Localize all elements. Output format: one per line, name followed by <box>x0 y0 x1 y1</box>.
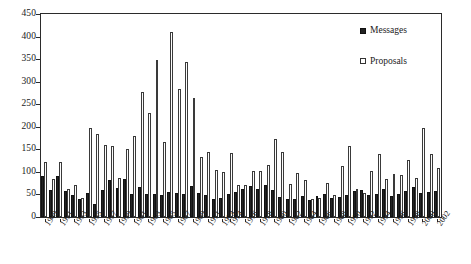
bar-proposals <box>393 174 396 217</box>
bar-proposals <box>207 152 210 217</box>
bar-group <box>167 32 174 217</box>
bar-group <box>116 178 123 217</box>
bar-proposals <box>126 149 129 217</box>
y-axis-tick-label: 200 <box>21 122 36 132</box>
bar-proposals <box>59 162 62 217</box>
bar-group <box>108 146 115 217</box>
bar-proposals <box>274 139 277 217</box>
bar-group <box>419 128 426 217</box>
y-axis: 050100150200250300350400450 <box>0 0 40 218</box>
bar-group <box>278 152 285 217</box>
bar-proposals <box>148 113 151 217</box>
legend-label-messages: Messages <box>370 26 407 36</box>
legend-label-proposals: Proposals <box>370 57 407 67</box>
bar-proposals <box>222 172 225 217</box>
bar-group <box>256 171 263 217</box>
bar-group <box>345 146 352 217</box>
bar-group <box>227 153 234 217</box>
bar-proposals <box>156 60 159 217</box>
bar-proposals <box>163 142 166 217</box>
bar-proposals <box>111 146 114 217</box>
legend-item-proposals: Proposals <box>360 57 428 67</box>
bar-group <box>101 145 108 217</box>
bar-group <box>204 152 211 217</box>
bar-group <box>301 180 308 217</box>
bar-proposals <box>178 89 181 217</box>
bar-group <box>375 154 382 217</box>
bar-group <box>93 134 100 217</box>
bar-group <box>145 113 152 217</box>
bar-group <box>175 89 182 217</box>
bar-proposals <box>259 171 262 217</box>
y-axis-tick-label: 400 <box>21 32 36 42</box>
bar-proposals <box>193 98 196 217</box>
bar-proposals <box>348 146 351 217</box>
bar-proposals <box>200 157 203 217</box>
bar-group <box>197 157 204 217</box>
bar-proposals <box>289 184 292 217</box>
bar-group <box>160 142 167 217</box>
bar-proposals <box>281 152 284 217</box>
x-axis: 1949195119531955195719591961196319651967… <box>41 219 441 264</box>
bar-proposals <box>304 180 307 217</box>
bar-group <box>182 62 189 217</box>
bar-group <box>219 172 226 217</box>
bar-proposals <box>437 168 440 217</box>
y-axis-tick-label: 250 <box>21 99 36 109</box>
bar-group <box>427 154 434 217</box>
y-axis-tick-label: 150 <box>21 145 36 155</box>
bar-proposals <box>74 185 77 217</box>
bar-group <box>41 162 48 217</box>
bar-group <box>271 139 278 217</box>
bar-group <box>390 174 397 217</box>
bar-proposals <box>133 136 136 217</box>
bar-proposals <box>363 193 366 217</box>
bar-proposals <box>244 185 247 217</box>
legend-item-messages: Messages <box>360 26 428 36</box>
bar-proposals <box>96 134 99 217</box>
bar-proposals <box>230 153 233 217</box>
bar-group <box>434 168 441 217</box>
bar-proposals <box>407 160 410 217</box>
y-axis-tick-label: 300 <box>21 77 36 87</box>
bar-proposals <box>141 92 144 217</box>
legend-swatch-messages-icon <box>360 28 366 34</box>
bar-proposals <box>422 128 425 217</box>
bar-proposals <box>378 154 381 217</box>
bar-group <box>138 92 145 217</box>
bar-group <box>404 160 411 217</box>
bar-proposals <box>104 145 107 217</box>
bar-proposals <box>185 62 188 217</box>
bar-group <box>56 162 63 217</box>
bar-group <box>123 149 130 217</box>
bar-proposals <box>170 32 173 217</box>
legend-swatch-proposals-icon <box>360 58 366 64</box>
bar-group <box>86 128 93 217</box>
y-axis-tick-label: 50 <box>26 190 36 200</box>
bar-proposals <box>89 128 92 217</box>
y-axis-tick-label: 450 <box>21 9 36 19</box>
legend: Messages Proposals <box>358 22 430 70</box>
y-axis-tick-label: 350 <box>21 54 36 64</box>
bar-group <box>190 98 197 217</box>
bar-proposals <box>118 178 121 217</box>
bar-proposals <box>44 162 47 217</box>
bar-group <box>130 136 137 217</box>
bar-group <box>153 60 160 217</box>
bar-chart: 050100150200250300350400450 194919511953… <box>0 0 471 264</box>
y-axis-tick-label: 100 <box>21 167 36 177</box>
bar-proposals <box>430 154 433 217</box>
